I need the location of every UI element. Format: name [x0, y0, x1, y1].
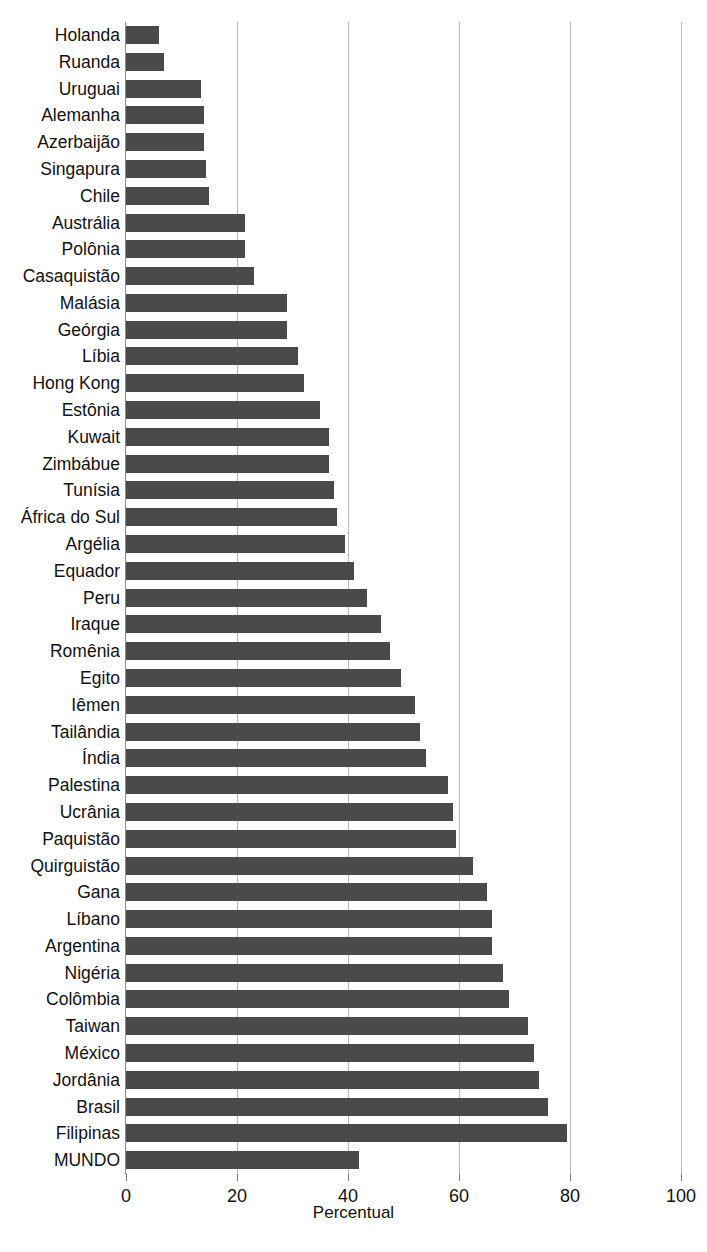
bar[interactable]: [126, 267, 254, 285]
category-label: Romênia: [50, 639, 120, 663]
category-label: Brasil: [76, 1095, 120, 1119]
bar[interactable]: [126, 562, 354, 580]
bar[interactable]: [126, 910, 492, 928]
bar[interactable]: [126, 374, 304, 392]
bar-row: Zimbábue: [126, 451, 681, 478]
bar[interactable]: [126, 53, 164, 71]
bar[interactable]: [126, 937, 492, 955]
bar[interactable]: [126, 776, 448, 794]
bar[interactable]: [126, 106, 204, 124]
bar[interactable]: [126, 294, 287, 312]
bar-row: México: [126, 1040, 681, 1067]
chart-title: [0, 0, 707, 5]
bar[interactable]: [126, 1044, 534, 1062]
category-label: Taiwan: [66, 1014, 120, 1038]
category-label: Palestina: [48, 773, 120, 797]
bar-row: Alemanha: [126, 102, 681, 129]
category-label: Alemanha: [41, 103, 120, 127]
bar[interactable]: [126, 669, 401, 687]
category-label: Ruanda: [59, 50, 120, 74]
category-label: Chile: [80, 184, 120, 208]
bar-row: Tunísia: [126, 477, 681, 504]
category-label: Argentina: [45, 934, 120, 958]
bar-row: Tailândia: [126, 719, 681, 746]
category-label: Nigéria: [65, 961, 120, 985]
category-label: Austrália: [52, 211, 120, 235]
x-axis-tick: [570, 1174, 571, 1181]
bar-row: Líbano: [126, 906, 681, 933]
bar[interactable]: [126, 481, 334, 499]
bar[interactable]: [126, 428, 329, 446]
bar[interactable]: [126, 1151, 359, 1169]
bar-row: Hong Kong: [126, 370, 681, 397]
bar[interactable]: [126, 26, 159, 44]
bar[interactable]: [126, 964, 503, 982]
bar-row: Geórgia: [126, 317, 681, 344]
chart-page: HolandaRuandaUruguaiAlemanhaAzerbaijãoSi…: [0, 0, 707, 1252]
bar-row: Uruguai: [126, 76, 681, 103]
bar[interactable]: [126, 133, 204, 151]
category-label: Casaquistão: [23, 264, 120, 288]
x-axis-tick: [459, 1174, 460, 1181]
category-label: Argélia: [66, 532, 120, 556]
x-axis-tick: [237, 1174, 238, 1181]
bar[interactable]: [126, 883, 487, 901]
bar-row: Equador: [126, 558, 681, 585]
bar-row: Egito: [126, 665, 681, 692]
x-axis-title: Percentual: [0, 1203, 707, 1223]
bar[interactable]: [126, 696, 415, 714]
bar[interactable]: [126, 749, 426, 767]
gridline: [681, 22, 682, 1174]
category-label: Zimbábue: [42, 452, 120, 476]
bar[interactable]: [126, 508, 337, 526]
bar-row: Colômbia: [126, 986, 681, 1013]
category-label: Tailândia: [51, 720, 120, 744]
bar[interactable]: [126, 321, 287, 339]
bar-row: Paquistão: [126, 826, 681, 853]
bar-row: Ruanda: [126, 49, 681, 76]
category-label: Geórgia: [58, 318, 120, 342]
category-label: Iêmen: [71, 693, 120, 717]
category-label: Colômbia: [46, 987, 120, 1011]
bar[interactable]: [126, 857, 473, 875]
bar[interactable]: [126, 214, 245, 232]
bar-row: Quirguistão: [126, 853, 681, 880]
bar-row: Austrália: [126, 210, 681, 237]
category-label: Equador: [54, 559, 120, 583]
category-label: Gana: [77, 880, 120, 904]
bar-row: Peru: [126, 585, 681, 612]
category-label: Índia: [82, 746, 120, 770]
x-axis-tick: [126, 1174, 127, 1181]
bar[interactable]: [126, 347, 298, 365]
bar[interactable]: [126, 401, 320, 419]
bar[interactable]: [126, 589, 367, 607]
bar-row: Romênia: [126, 638, 681, 665]
bar[interactable]: [126, 723, 420, 741]
bar[interactable]: [126, 187, 209, 205]
bar[interactable]: [126, 535, 345, 553]
category-label: África do Sul: [21, 505, 120, 529]
bar[interactable]: [126, 803, 453, 821]
category-label: Estônia: [62, 398, 120, 422]
bar-row: Casaquistão: [126, 263, 681, 290]
bar[interactable]: [126, 1124, 567, 1142]
bar[interactable]: [126, 990, 509, 1008]
bar[interactable]: [126, 1017, 528, 1035]
bar-row: MUNDO: [126, 1147, 681, 1174]
category-label: México: [65, 1041, 120, 1065]
bar[interactable]: [126, 240, 245, 258]
bar[interactable]: [126, 830, 456, 848]
category-label: Iraque: [70, 612, 120, 636]
bar[interactable]: [126, 1098, 548, 1116]
bar[interactable]: [126, 642, 390, 660]
bar[interactable]: [126, 160, 206, 178]
bar-row: Nigéria: [126, 960, 681, 987]
category-label: Uruguai: [59, 77, 120, 101]
bar-row: Líbia: [126, 343, 681, 370]
bar-row: Iêmen: [126, 692, 681, 719]
bar[interactable]: [126, 615, 381, 633]
bar[interactable]: [126, 80, 201, 98]
bar[interactable]: [126, 1071, 539, 1089]
bar-row: Azerbaijão: [126, 129, 681, 156]
bar[interactable]: [126, 455, 329, 473]
